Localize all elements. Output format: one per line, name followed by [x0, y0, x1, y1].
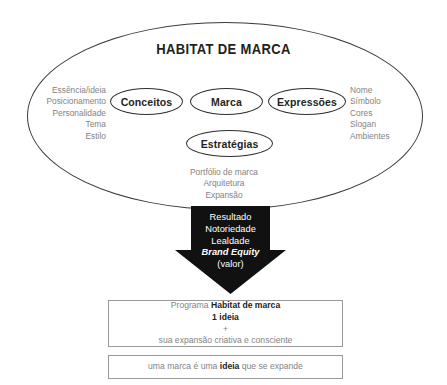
program-line-4: sua expansão criativa e consciente	[159, 335, 293, 347]
node-estrategias[interactable]: Estratégias	[186, 130, 273, 157]
node-marca[interactable]: Marca	[190, 88, 263, 115]
program-line-2: 1 ideia	[212, 312, 239, 324]
diagram-canvas: HABITAT DE MARCA Essência/ideia Posicion…	[0, 0, 447, 385]
claim-bold: ideia	[220, 361, 240, 371]
attributes-left-list: Essência/ideia Posicionamento Personalid…	[22, 85, 106, 142]
attributes-bottom-list: Portfólio de marca Arquitetura Expansão	[150, 167, 298, 201]
program-line-1-bold: Habitat de marca	[211, 300, 280, 310]
program-line-1-prefix: Programa	[171, 300, 211, 310]
attributes-right-list: Nome Símbolo Cores Slogan Ambientes	[350, 85, 430, 142]
claim-prefix: uma marca é uma	[148, 361, 220, 371]
brand-habitat-diagram: HABITAT DE MARCA Essência/ideia Posicion…	[0, 0, 447, 385]
arrow-line-5: (valor)	[175, 259, 286, 271]
claim-text: uma marca é uma ideia que se expande	[148, 361, 303, 373]
claim-suffix: que se expande	[239, 361, 303, 371]
arrow-line-3: Lealdade	[175, 236, 286, 248]
node-conceitos[interactable]: Conceitos	[110, 88, 183, 115]
diagram-title: HABITAT DE MARCA	[36, 40, 411, 58]
arrow-line-4: Brand Equity	[175, 247, 286, 259]
result-arrow-text: Resultado Notoriedade Lealdade Brand Equ…	[175, 212, 286, 271]
program-line-1: Programa Habitat de marca	[171, 300, 280, 312]
program-box: Programa Habitat de marca 1 ideia + sua …	[108, 300, 343, 347]
arrow-line-2: Notoriedade	[175, 224, 286, 236]
node-expressoes[interactable]: Expressões	[268, 88, 346, 115]
arrow-line-1: Resultado	[175, 212, 286, 224]
result-arrow: Resultado Notoriedade Lealdade Brand Equ…	[175, 206, 286, 294]
claim-box: uma marca é uma ideia que se expande	[108, 355, 343, 379]
program-line-3: +	[223, 324, 228, 336]
